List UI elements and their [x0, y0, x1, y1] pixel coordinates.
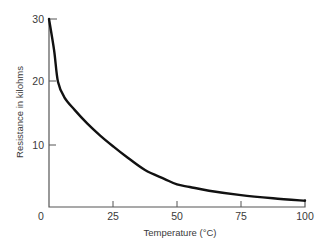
x-tick-label-75: 75	[235, 210, 247, 222]
y-tick-label-10: 10	[32, 139, 44, 151]
y-axis-title: Resistance in kilohms	[14, 66, 25, 158]
y-tick-label-20: 20	[32, 75, 44, 87]
y-tick-label-30: 30	[32, 13, 44, 25]
x-tick-label-25: 25	[107, 210, 119, 222]
x-axis-title: Temperature (°C)	[144, 227, 217, 238]
axes	[49, 19, 305, 207]
plot-area: 30 20 10 0 25 50 75 100 Temperature (°C)…	[14, 13, 314, 238]
x-tick-label-0: 0	[38, 210, 44, 222]
resistance-curve	[49, 19, 305, 201]
x-tick-label-50: 50	[171, 210, 183, 222]
x-tick-label-100: 100	[296, 210, 314, 222]
resistance-temperature-chart: 30 20 10 0 25 50 75 100 Temperature (°C)…	[0, 0, 326, 249]
